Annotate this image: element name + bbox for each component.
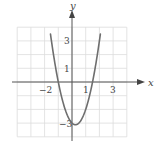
y-axis-label: y bbox=[69, 0, 76, 11]
y-tick-label: 1 bbox=[64, 64, 70, 74]
y-axis-arrow-icon bbox=[69, 10, 75, 18]
y-tick-label: 3 bbox=[64, 36, 70, 46]
x-axis-label: x bbox=[148, 77, 154, 88]
function-graph: x y −2 1 3 3 1 −3 bbox=[0, 0, 156, 147]
x-axis-arrow-icon bbox=[137, 79, 145, 85]
x-tick-label: 3 bbox=[110, 85, 116, 95]
x-tick-label: 1 bbox=[83, 85, 89, 95]
x-tick-label: −2 bbox=[39, 85, 52, 95]
